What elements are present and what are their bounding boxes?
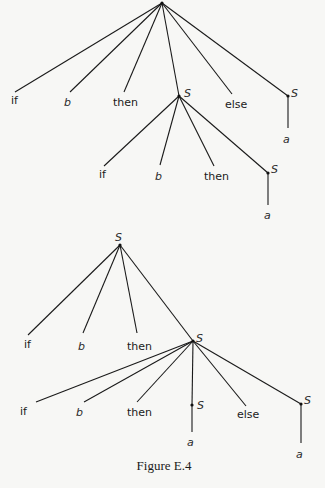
parse-tree-diagram: ifbthenSelseSifbthenSaaSifbthenSifbthenS… (0, 0, 325, 488)
edge-t1-S-right (162, 3, 288, 96)
edge-t2-then (120, 245, 137, 333)
edge-t1-else (162, 3, 232, 94)
node-label-t2m-a: a (187, 436, 194, 449)
node-label-t1-else: else (225, 98, 248, 111)
edge-t1-then (124, 3, 162, 92)
figure-canvas: ifbthenSelseSifbthenSaaSifbthenSifbthenS… (0, 0, 325, 488)
edge-t1-S-mid (162, 3, 179, 96)
node-label-t1-if: if (11, 94, 19, 107)
edge-t1-b (70, 3, 162, 92)
edge-t1m-S (179, 96, 268, 173)
node-label-t1-b: b (64, 96, 71, 109)
tree-edges (15, 3, 301, 443)
node-label-t2m-else: else (237, 408, 260, 421)
tree_top-root-dot (160, 1, 163, 4)
edge-t1m-then (179, 96, 214, 166)
node-label-t2m-then: then (127, 406, 152, 419)
node-label-t2m-if: if (20, 405, 28, 418)
node-label-t2-if: if (24, 338, 32, 351)
figure-caption: Figure E.4 (137, 458, 192, 473)
node-label-tree_bottom-root: S (115, 231, 122, 244)
edge-t1-if (15, 3, 162, 92)
node-label-t1m-if: if (99, 168, 107, 181)
edge-t2m-S-right (193, 341, 301, 404)
tree-labels: ifbthenSelseSifbthenSaaSifbthenSifbthenS… (11, 87, 311, 461)
node-label-t2-then: then (127, 340, 152, 353)
node-label-t2-b: b (78, 340, 85, 353)
edge-t2-b (83, 245, 120, 333)
node-dot-t2m-S-right (299, 402, 302, 405)
node-dot-t2-S-mid (191, 339, 194, 342)
edge-t2m-else (193, 341, 246, 406)
node-label-t1m-a: a (264, 209, 271, 222)
node-label-t1-S-mid: S (184, 87, 191, 100)
node-label-t2-S-mid: S (196, 332, 203, 345)
edge-t1m-b (160, 96, 179, 165)
edge-t2-S-mid (120, 245, 193, 341)
node-dot-t1-S-mid (177, 94, 180, 97)
edge-t2m-S (192, 341, 193, 405)
node-label-t2m-b: b (76, 406, 83, 419)
node-label-t2r-a: a (296, 448, 303, 461)
node-label-t2m-S-right: S (304, 394, 311, 407)
node-label-t1m-S: S (271, 163, 278, 176)
node-dot-t1-S-right (286, 94, 289, 97)
node-label-t1-then: then (113, 96, 138, 109)
node-label-t2m-S: S (197, 399, 204, 412)
node-dot-t1m-S (266, 171, 269, 174)
node-dot-t2m-S (190, 403, 193, 406)
edge-t2m-if (36, 341, 193, 402)
node-label-t1m-b: b (155, 170, 162, 183)
node-label-t1m-then: then (204, 170, 229, 183)
edge-t2-if (28, 245, 120, 335)
node-label-t1-S-right: S (291, 87, 298, 100)
node-label-t1r-a: a (283, 133, 290, 146)
